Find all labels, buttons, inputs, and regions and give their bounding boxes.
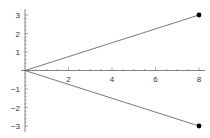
endpoint-marker-upper [197, 13, 202, 18]
tick-labels: 2468−3−2−1123 [11, 11, 202, 131]
x-tick-label: 4 [110, 75, 115, 84]
y-tick-label: −2 [11, 104, 21, 113]
x-tick-label: 2 [66, 75, 71, 84]
x-tick-label: 6 [153, 75, 158, 84]
y-tick-label: −3 [11, 122, 21, 131]
chart: 2468−3−2−1123 [0, 0, 210, 138]
y-tick-label: −1 [11, 85, 21, 94]
series-line-upper [25, 15, 199, 71]
endpoint-marker-lower [197, 124, 202, 129]
y-tick-label: 2 [16, 30, 21, 39]
y-tick-label: 1 [16, 48, 21, 57]
y-tick-label: 3 [16, 11, 21, 20]
x-tick-label: 8 [197, 75, 202, 84]
